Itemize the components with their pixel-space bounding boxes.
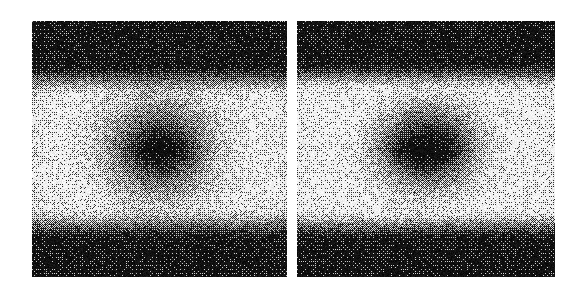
speckle-canvas-right	[297, 21, 555, 277]
figure-root	[0, 0, 582, 295]
speckle-panel-right	[297, 21, 555, 277]
speckle-canvas-left	[32, 21, 287, 277]
speckle-panel-left	[32, 21, 287, 277]
